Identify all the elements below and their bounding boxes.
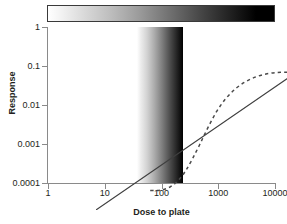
plot-area — [48, 27, 275, 183]
y-tick-0.01 — [42, 105, 48, 106]
y-tick-label-0.01: 0.01 — [0, 101, 40, 110]
linear-response-line — [96, 54, 287, 210]
y-tick-label-0.1: 0.1 — [0, 62, 40, 71]
y-tick-label-1: 1 — [0, 23, 40, 32]
colorbar-gradient-fill — [48, 6, 274, 21]
x-axis-title: Dose to plate — [48, 207, 275, 217]
y-tick-1 — [42, 27, 48, 28]
x-tick-label-10000: 10000 — [255, 189, 287, 198]
dose-greyscale-colorbar — [47, 5, 275, 22]
sigmoid-response-curve — [150, 72, 287, 190]
x-tick-label-100: 100 — [142, 189, 182, 198]
x-tick-label-1000: 1000 — [198, 189, 238, 198]
y-tick-label-0.0001: 0.0001 — [0, 179, 40, 188]
y-axis-title: Response — [7, 58, 17, 128]
data-curves — [96, 54, 287, 210]
y-tick-label-0.001: 0.001 — [0, 140, 40, 149]
figure-canvas: 1 0.1 0.01 0.001 0.0001 1 10 100 1000 10… — [0, 0, 287, 224]
x-tick-label-1: 1 — [28, 189, 68, 198]
y-tick-0.001 — [42, 144, 48, 145]
x-tick-label-10: 10 — [85, 189, 125, 198]
y-tick-0.1 — [42, 66, 48, 67]
